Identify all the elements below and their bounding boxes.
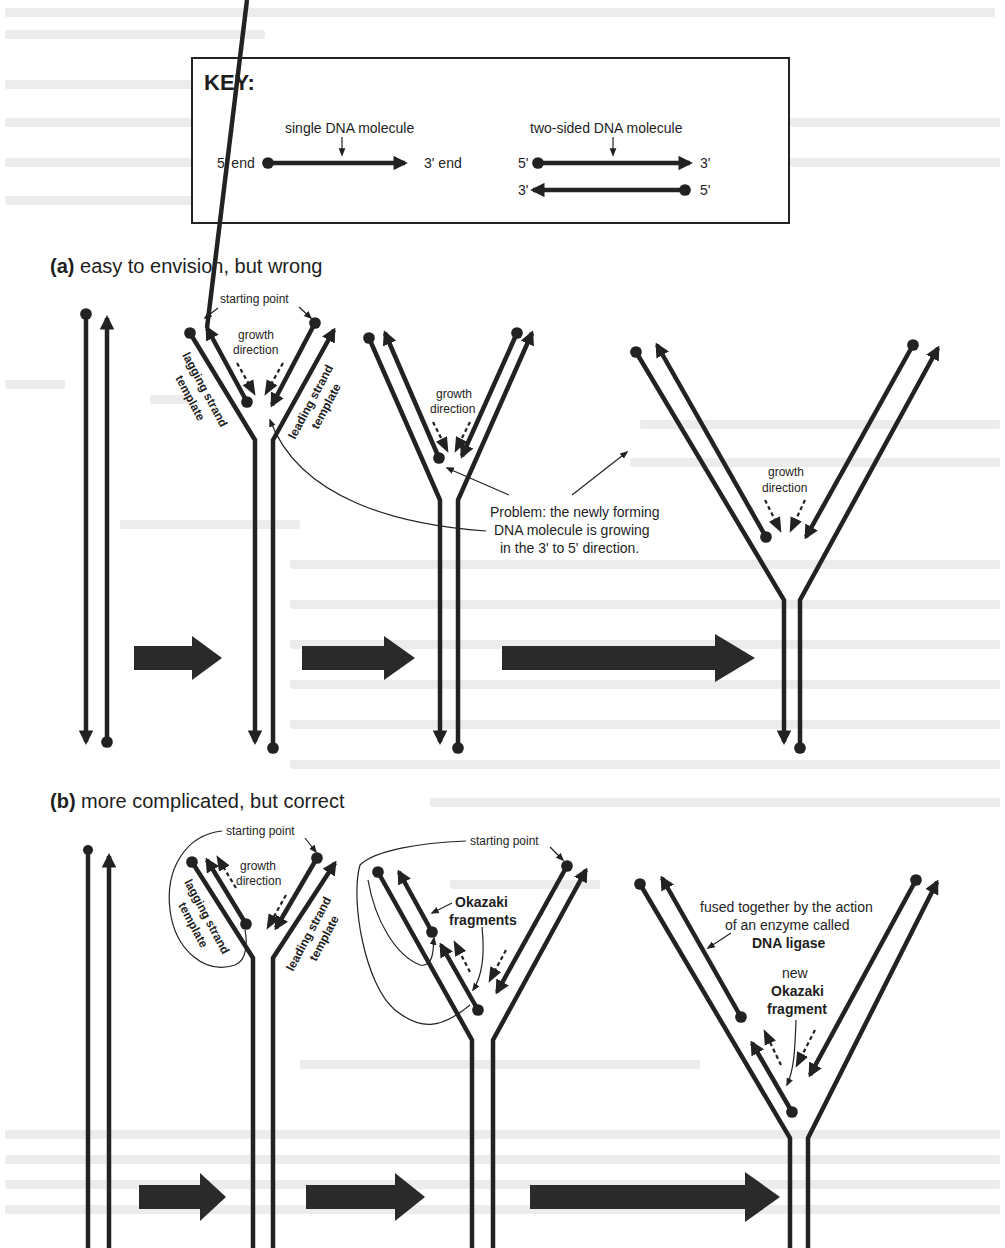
panel-a-heading: (a) easy to envision, but wrong: [50, 255, 322, 277]
b-progress-arrow-3: [530, 1172, 780, 1222]
a-step4-fork: growth direction: [636, 345, 938, 748]
key-title: KEY:: [204, 70, 255, 95]
b-okazaki-label-1: Okazaki: [455, 894, 508, 910]
panel-a-title: easy to envision, but wrong: [74, 255, 322, 277]
b-fused-line-2: of an enzyme called: [725, 917, 850, 933]
a-growth-label-6: direction: [762, 481, 807, 495]
a-growth-label-4: direction: [430, 402, 475, 416]
key-double-top-3: 3': [700, 155, 710, 171]
b-growth-label-1: growth: [240, 859, 276, 873]
b-new-okazaki-line-2: Okazaki: [771, 983, 824, 999]
key-single-3-label: 3' end: [424, 155, 462, 171]
panel-b-title: more complicated, but correct: [76, 790, 345, 812]
b-new-okazaki-line-1: new: [782, 965, 809, 981]
a-progress-arrow-1: [134, 636, 222, 680]
b-step1-dna: [83, 845, 109, 1248]
b-progress-arrow-2: [306, 1173, 425, 1221]
dna-replication-diagram: KEY: single DNA molecule 5' end 3' end t…: [0, 0, 1005, 1248]
b-fused-line-1: fused together by the action: [700, 899, 873, 915]
b-fused-line-3: DNA ligase: [752, 935, 826, 951]
a-problem-line-2: DNA molecule is growing: [494, 522, 650, 538]
b-starting-point-label-2: starting point: [470, 834, 539, 848]
b-new-okazaki-line-3: fragment: [767, 1001, 827, 1017]
key-box: KEY: single DNA molecule 5' end 3' end t…: [192, 58, 789, 223]
b-step2-fork: starting point growth direction lagging …: [169, 824, 342, 1248]
panel-b-letter: (b): [50, 790, 76, 812]
key-single-5-label: 5' end: [217, 155, 255, 171]
key-double-top-5: 5': [518, 155, 528, 171]
a-progress-arrow-2: [302, 636, 415, 680]
a-starting-point-label: starting point: [220, 292, 289, 306]
key-double-label: two-sided DNA molecule: [530, 120, 683, 136]
a-growth-label-5: growth: [768, 465, 804, 479]
panel-a-letter: (a): [50, 255, 74, 277]
a-step1-dna: [86, 314, 107, 742]
a-growth-label-2: direction: [233, 343, 278, 357]
key-double-bot-3: 3': [518, 182, 528, 198]
panel-b: (b) more complicated, but correct starti…: [50, 790, 937, 1248]
b-progress-arrow-1: [139, 1173, 226, 1221]
b-growth-label-2: direction: [236, 874, 281, 888]
key-double-bot-5: 5': [700, 182, 710, 198]
b-okazaki-label-2: fragments: [449, 912, 517, 928]
a-growth-label-3: growth: [436, 387, 472, 401]
panel-b-heading: (b) more complicated, but correct: [50, 790, 345, 812]
a-growth-label-1: growth: [238, 328, 274, 342]
b-starting-point-label-1: starting point: [226, 824, 295, 838]
a-progress-arrow-3: [502, 634, 755, 682]
a-problem-line-3: in the 3' to 5' direction.: [500, 540, 639, 556]
key-single-label: single DNA molecule: [285, 120, 414, 136]
a-problem-line-1: Problem: the newly forming: [490, 504, 660, 520]
